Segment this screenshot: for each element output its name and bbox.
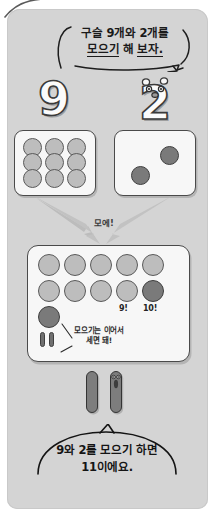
- marble: [90, 280, 112, 302]
- marble: [116, 254, 138, 276]
- marble: [38, 280, 60, 302]
- stick-character-face-icon: [110, 373, 122, 395]
- count-label-ten: 10!: [143, 304, 157, 313]
- page-curl-icon: [2, 0, 48, 20]
- numeral-nine: 9: [38, 76, 70, 122]
- top-bubble-word-boja: 보자.: [137, 42, 162, 57]
- marble-box-nine: [14, 130, 96, 196]
- marble: [160, 146, 179, 165]
- result-note: 모으기는 이어서 세면 돼!: [74, 326, 179, 346]
- bottom-speech-bubble: 9와 2를 모으기 하면 11이에요.: [24, 424, 190, 480]
- marble: [38, 254, 60, 276]
- marble: [64, 254, 86, 276]
- converging-arrows: 모에!: [14, 196, 194, 246]
- marble: [131, 166, 150, 185]
- marble: [45, 169, 64, 188]
- top-bubble-mid: 해: [119, 42, 137, 56]
- marble: [23, 169, 42, 188]
- marble: [38, 306, 60, 328]
- marble: [142, 254, 164, 276]
- top-bubble-text: 구슬 9개와 2개를 모으기 해 보자.: [55, 25, 195, 57]
- result-note-line1: 모으기는 이어서: [74, 326, 124, 335]
- arrow-label: 모에!: [14, 216, 194, 228]
- top-speech-bubble: 구슬 9개와 2개를 모으기 해 보자.: [55, 24, 195, 72]
- top-bubble-line1: 구슬 9개와 2개를: [81, 26, 168, 40]
- result-note-line2: 세면 돼!: [74, 336, 179, 346]
- tally-stick: [49, 332, 54, 347]
- marble: [90, 254, 112, 276]
- stick-plain: [86, 371, 98, 413]
- marble: [116, 280, 138, 302]
- bottom-bubble-line2: 11이에요.: [81, 460, 133, 474]
- two-character-face-icon: [137, 76, 177, 102]
- bottom-bubble-text: 9와 2를 모으기 하면 11이에요.: [24, 442, 190, 476]
- tally-stick: [40, 332, 45, 347]
- marble: [64, 280, 86, 302]
- result-marble-box: 9! 10! 모으기는 이어서 세면 돼!: [27, 245, 190, 362]
- worksheet-page: 구슬 9개와 2개를 모으기 해 보자. 9 2: [0, 0, 215, 514]
- top-bubble-word-moeugi: 모으기: [87, 42, 119, 57]
- marble: [142, 280, 164, 302]
- bottom-bubble-line1: 9와 2를 모으기 하면: [56, 443, 157, 457]
- marble: [67, 169, 86, 188]
- count-label-nine: 9!: [119, 304, 128, 313]
- marble-box-two: [114, 130, 196, 196]
